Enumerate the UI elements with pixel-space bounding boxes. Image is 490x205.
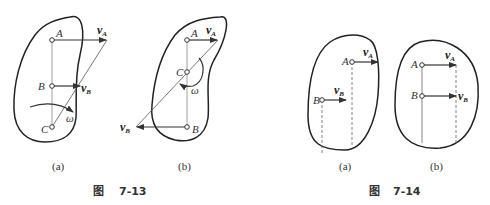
label-a: A (190, 27, 198, 39)
figure-caption-7-13: 图 7-13 (93, 185, 147, 198)
point-a (420, 63, 425, 68)
point-b (320, 98, 325, 103)
point-b (50, 84, 55, 89)
point-a (50, 38, 55, 43)
caption-prefix: 图 (369, 185, 380, 198)
figure-7-14-panel-b: A B vA vB (b) (395, 40, 478, 173)
label-c: C (41, 123, 49, 135)
label-b: B (38, 80, 45, 92)
subcaption-b: (b) (178, 160, 191, 173)
caption-prefix: 图 (93, 185, 104, 198)
point-a (185, 38, 190, 43)
figure-7-14-panel-a: A B vA vB (a) (308, 35, 379, 173)
label-b: B (192, 123, 199, 135)
label-va: vA (363, 45, 373, 60)
velocity-distribution-line (136, 40, 218, 127)
figure-caption-7-14: 图 7-14 (369, 185, 421, 198)
caption-number: 7-14 (393, 185, 421, 198)
point-a (350, 60, 355, 65)
point-b (185, 125, 190, 130)
label-va: vA (206, 23, 216, 38)
omega-arc (30, 104, 73, 112)
label-a: A (55, 27, 63, 39)
velocity-distribution-line (52, 40, 107, 127)
label-omega: ω (191, 84, 199, 96)
label-va: vA (445, 48, 455, 63)
label-c: C (176, 66, 184, 78)
label-omega: ω (66, 112, 74, 124)
label-b: B (411, 89, 418, 101)
rigid-body-outline (395, 40, 478, 148)
label-a: A (341, 55, 349, 67)
label-vb: vB (120, 120, 130, 135)
label-b: B (313, 94, 320, 106)
caption-number: 7-13 (119, 185, 147, 198)
figure-7-13-panel-b: A C B vA vB ω (b) (120, 17, 227, 173)
subcaption-b: (b) (430, 160, 443, 173)
point-c (50, 125, 55, 130)
subcaption-a: (a) (339, 160, 352, 173)
label-vb: vB (81, 81, 91, 96)
point-b (420, 94, 425, 99)
label-a: A (410, 58, 418, 70)
omega-arc (180, 58, 203, 86)
subcaption-a: (a) (52, 160, 65, 173)
figure-7-13-panel-a: A B C vA vB ω (a) (14, 16, 107, 173)
diagram-canvas: A B C vA vB ω (a) A C B vA vB ω (b) 图 7-… (0, 0, 490, 205)
label-vb: vB (458, 89, 468, 104)
label-vb: vB (334, 83, 344, 98)
label-va: vA (97, 23, 107, 38)
point-c (185, 70, 190, 75)
